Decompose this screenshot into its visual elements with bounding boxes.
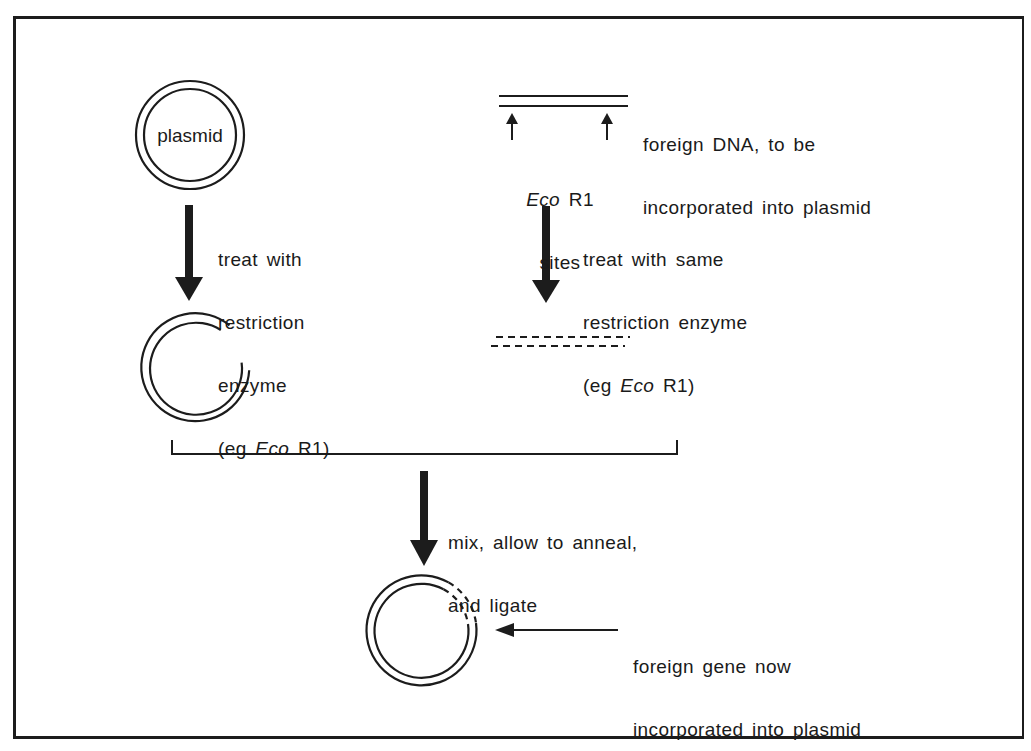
foreign-dna-strands — [499, 96, 628, 106]
result-line1: foreign gene now — [633, 656, 861, 677]
plasmid-label: plasmid — [145, 125, 235, 146]
step-left-line1: treat with — [218, 249, 330, 270]
step-right-caption: treat with same restriction enzyme (eg E… — [583, 207, 747, 417]
step-right-line3-italic: Eco — [620, 375, 654, 396]
result-line2: incorporated into plasmid — [633, 719, 861, 740]
eco-r1-site-arrow-icon — [601, 113, 613, 140]
step-left-line2: restriction — [218, 312, 330, 333]
diagram-canvas — [0, 0, 1031, 751]
step-mix-line2: and ligate — [448, 595, 638, 616]
step-right-line2: restriction enzyme — [583, 312, 747, 333]
step-mix-caption: mix, allow to anneal, and ligate — [448, 490, 638, 637]
result-caption: foreign gene now incorporated into plasm… — [633, 614, 861, 751]
step-right-line1: treat with same — [583, 249, 747, 270]
step-left-line4-italic: Eco — [255, 438, 289, 459]
arrow-down-left-icon — [175, 205, 203, 301]
step-left-line4-suffix: R1) — [289, 438, 330, 459]
arrow-down-mix-icon — [410, 471, 438, 566]
step-left-line4-prefix: (eg — [218, 438, 255, 459]
step-right-line3-suffix: R1) — [654, 375, 695, 396]
step-mix-line1: mix, allow to anneal, — [448, 532, 638, 553]
step-left-caption: treat with restriction enzyme (eg Eco R1… — [218, 207, 330, 480]
foreign-dna-caption-line1: foreign DNA, to be — [643, 134, 871, 155]
step-right-line3-prefix: (eg — [583, 375, 620, 396]
eco-r1-site-arrow-icon — [506, 113, 518, 140]
step-left-line3: enzyme — [218, 375, 330, 396]
eco-italic: Eco — [526, 189, 560, 210]
